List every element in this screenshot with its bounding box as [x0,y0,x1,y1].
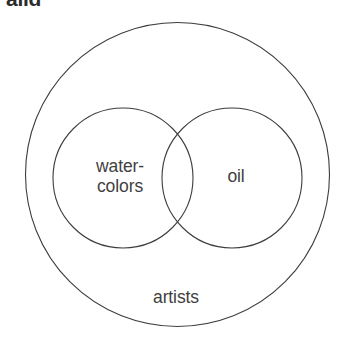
label-oil: oil [227,166,244,186]
label-watercolors-line2: colors [97,176,143,196]
venn-diagram-canvas: water- colors oil artists [0,0,350,338]
venn-diagram-figure: alid water- colors oil artists [0,0,350,338]
label-artists: artists [153,287,199,307]
label-watercolors-line1: water- [95,156,144,176]
outer-circle-artists [26,23,330,327]
